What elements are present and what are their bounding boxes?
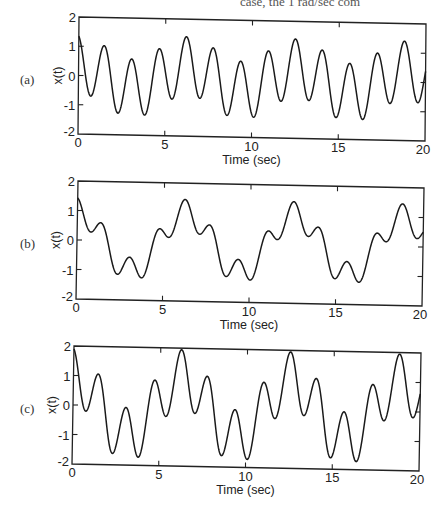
panel-label: (a) <box>20 72 34 87</box>
y-tick-label: -2 <box>57 454 69 469</box>
x-axis-label: Time (sec) <box>216 483 275 497</box>
y-tick-label: -1 <box>58 428 70 443</box>
panel-label: (c) <box>20 401 34 416</box>
x-tick-label: 5 <box>161 137 168 152</box>
y-tick-label: 1 <box>63 369 70 384</box>
x-tick-label: 5 <box>159 302 166 317</box>
y-axis-label: x(t) <box>49 231 63 249</box>
x-tick-label: 10 <box>242 304 256 319</box>
x-tick-label: 15 <box>331 140 345 155</box>
figure: 05101520210-1-2Time (sec)x(t)(a)05101520… <box>0 0 441 505</box>
x-tick-label: 0 <box>72 300 79 315</box>
x-tick-label: 20 <box>416 142 430 157</box>
y-tick-label: 2 <box>68 174 75 189</box>
y-tick-label: 2 <box>64 339 71 354</box>
y-tick-label: 0 <box>63 398 70 413</box>
x-tick-label: 15 <box>328 305 342 320</box>
y-axis-label: x(t) <box>45 396 59 414</box>
x-tick-label: 15 <box>325 470 339 485</box>
signal-line <box>79 36 426 119</box>
x-tick-label: 10 <box>238 469 252 484</box>
x-tick-label: 20 <box>413 307 427 322</box>
axes-box <box>78 17 426 141</box>
y-tick-label: -1 <box>62 263 74 278</box>
x-tick-label: 10 <box>244 139 258 154</box>
x-tick-label: 0 <box>74 135 81 150</box>
y-tick-label: 0 <box>68 69 75 84</box>
chart-panel-a: 05101520210-1-2Time (sec)x(t)(a) <box>20 10 430 167</box>
chart-panel-b: 05101520210-1-2Time (sec)x(t)(b) <box>20 174 427 332</box>
signal-line <box>74 349 420 462</box>
x-tick-label: 0 <box>68 465 75 480</box>
x-tick-label: 20 <box>410 472 424 487</box>
y-tick-label: -1 <box>64 98 76 113</box>
signal-line <box>78 198 424 282</box>
x-axis-label: Time (sec) <box>220 318 279 332</box>
chart-panel-c: 05101520210-1-2Time (sec)x(t)(c) <box>20 339 424 497</box>
panel-label: (b) <box>20 236 35 251</box>
y-tick-label: 1 <box>69 39 76 54</box>
x-tick-label: 5 <box>155 467 162 482</box>
y-axis-label: x(t) <box>51 66 65 84</box>
y-tick-label: 0 <box>67 233 74 248</box>
y-tick-label: 1 <box>67 204 74 219</box>
x-axis-label: Time (sec) <box>222 153 281 167</box>
y-tick-label: -2 <box>63 124 75 139</box>
y-tick-label: -2 <box>61 289 73 304</box>
y-tick-label: 2 <box>69 10 76 25</box>
